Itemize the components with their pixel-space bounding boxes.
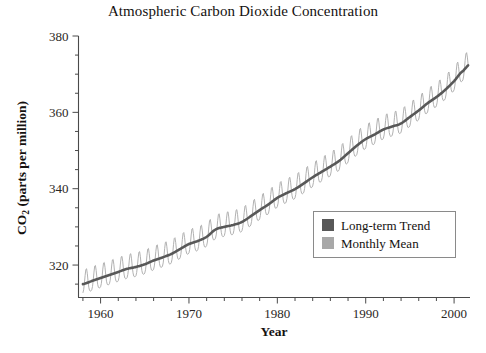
legend-swatch-monthly-mean <box>322 237 334 249</box>
svg-text:CO2 (parts per million): CO2 (parts per million) <box>14 101 31 235</box>
legend-label-monthly-mean: Monthly Mean <box>341 236 419 251</box>
y-axis-ticks <box>73 36 79 284</box>
y-axis-title-suffix: (parts per million) <box>14 101 29 210</box>
x-axis-title: Year <box>261 324 288 339</box>
y-tick-label: 360 <box>49 105 69 120</box>
legend-swatch-long-term-trend <box>322 219 334 231</box>
y-tick-label: 380 <box>49 29 69 44</box>
chart-page: Atmospheric Carbon Dioxide Concentration… <box>0 0 486 353</box>
co2-line-chart: 320340360380 19601970198019902000 CO2 (p… <box>0 0 486 353</box>
legend-label-long-term-trend: Long-term Trend <box>341 218 431 233</box>
x-axis-tick-labels: 19601970198019902000 <box>88 306 467 321</box>
y-axis-title: CO2 (parts per million) <box>14 101 31 235</box>
y-tick-label: 340 <box>49 181 69 196</box>
x-tick-label: 1970 <box>176 306 202 321</box>
chart-legend: Long-term Trend Monthly Mean <box>314 212 456 258</box>
axis-spines <box>78 36 470 298</box>
x-tick-label: 1990 <box>353 306 379 321</box>
x-tick-label: 1960 <box>88 306 114 321</box>
y-axis-tick-labels: 320340360380 <box>49 29 69 273</box>
x-axis-ticks <box>83 298 454 304</box>
y-axis-title-prefix: CO <box>14 215 29 235</box>
x-tick-label: 1980 <box>264 306 290 321</box>
y-tick-label: 320 <box>49 258 69 273</box>
x-tick-label: 2000 <box>441 306 467 321</box>
